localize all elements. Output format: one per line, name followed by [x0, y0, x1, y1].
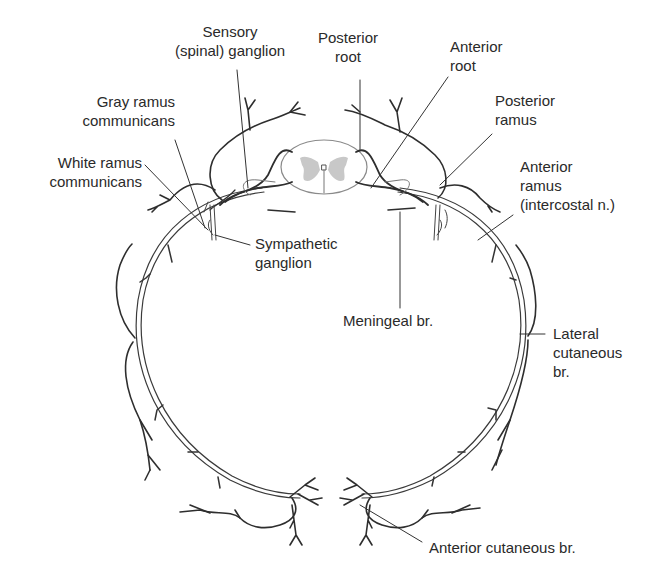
- label-text: Sensory: [175, 22, 285, 41]
- label-anterior-ramus: Anterior ramus (intercostal n.): [520, 157, 615, 214]
- label-anterior-cutaneous: Anterior cutaneous br.: [429, 538, 576, 557]
- label-posterior-root: Posterior root: [318, 28, 378, 66]
- posterior-ramus-right: [345, 98, 500, 212]
- label-text: ramus: [495, 110, 555, 129]
- label-text: Anterior cutaneous br.: [429, 538, 576, 557]
- label-text: ganglion: [255, 253, 338, 272]
- spinal-cord: [281, 140, 367, 194]
- label-gray-ramus: Gray ramus communicans: [78, 92, 175, 130]
- lateral-cutaneous-branch-left: [116, 244, 160, 480]
- roots-and-ganglion-left: [210, 150, 292, 210]
- label-text: Posterior: [318, 28, 378, 47]
- label-text: (intercostal n.): [520, 195, 615, 214]
- label-lateral-cutaneous: Lateral cutaneous br.: [553, 324, 622, 381]
- sympathetic-trunk-right: [434, 205, 447, 240]
- label-text: Anterior: [520, 157, 615, 176]
- label-text: Sympathetic: [255, 234, 338, 253]
- label-text: communicans: [78, 111, 175, 130]
- label-text: (spinal) ganglion: [175, 41, 285, 60]
- label-sensory-ganglion: Sensory (spinal) ganglion: [175, 22, 285, 60]
- label-text: Anterior: [450, 37, 503, 56]
- anterior-cutaneous-branches: [180, 478, 480, 545]
- label-text: cutaneous: [553, 343, 622, 362]
- label-text: root: [318, 47, 378, 66]
- sympathetic-trunk-left: [204, 202, 216, 240]
- label-text: root: [450, 56, 503, 75]
- label-text: White ramus: [20, 153, 142, 172]
- label-text: Meningeal br.: [343, 311, 433, 330]
- label-text: Posterior: [495, 91, 555, 110]
- label-white-ramus: White ramus communicans: [20, 153, 142, 191]
- muscular-branches: [140, 245, 516, 488]
- label-meningeal-branch: Meningeal br.: [343, 311, 433, 330]
- spinal-nerve-diagram: [0, 0, 663, 574]
- leader-lines: [145, 70, 545, 542]
- label-posterior-ramus: Posterior ramus: [495, 91, 555, 129]
- label-text: Gray ramus: [78, 92, 175, 111]
- label-text: br.: [553, 362, 622, 381]
- label-sympathetic-ganglion: Sympathetic ganglion: [255, 234, 338, 272]
- label-text: Lateral: [553, 324, 622, 343]
- label-text: ramus: [520, 176, 615, 195]
- meningeal-branches: [268, 208, 415, 212]
- label-text: communicans: [20, 172, 142, 191]
- label-anterior-root: Anterior root: [450, 37, 503, 75]
